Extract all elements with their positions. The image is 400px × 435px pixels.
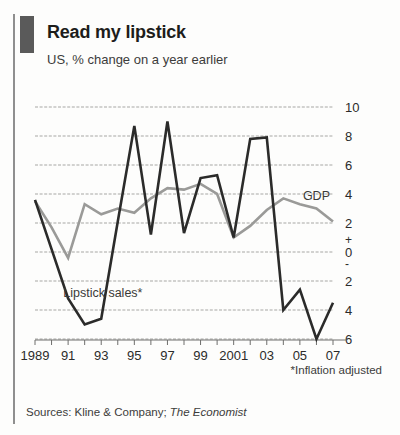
chart-card: Read my lipstick US, % change on a year …: [0, 0, 400, 435]
x-tick-label: 99: [193, 348, 207, 363]
data-series: [35, 122, 333, 340]
footnote: *Inflation adjusted: [291, 364, 382, 376]
x-tick-label: 97: [160, 348, 174, 363]
x-tick-label: 93: [94, 348, 108, 363]
series-line: [35, 122, 333, 340]
x-tick-label: 95: [127, 348, 141, 363]
series-labels: Lipstick sales*GDP: [63, 189, 330, 300]
sources-publication: The Economist: [170, 406, 247, 418]
x-tick-label: 05: [293, 348, 307, 363]
y-axis-tick-labels: 1086420246: [345, 100, 359, 347]
y-tick-label: 6: [345, 158, 352, 173]
x-tick-label: 2001: [219, 348, 248, 363]
y-tick-label: 4: [345, 303, 352, 318]
sources-line: Sources: Kline & Company; The Economist: [26, 406, 247, 418]
series-label: Lipstick sales*: [63, 286, 142, 300]
y-axis-plus-sign: +: [345, 233, 352, 247]
y-tick-label: 6: [345, 332, 352, 347]
series-label: GDP: [303, 189, 330, 203]
x-tick-label: 07: [326, 348, 340, 363]
x-axis: [35, 340, 347, 345]
x-tick-label: 03: [260, 348, 274, 363]
sources-prefix: Sources: Kline & Company;: [26, 406, 170, 418]
y-tick-label: 2: [345, 216, 352, 231]
x-axis-tick-labels: 198991939597992001030507: [21, 348, 341, 363]
x-tick-label: 1989: [21, 348, 50, 363]
y-tick-label: 10: [345, 100, 359, 115]
y-tick-label: 4: [345, 187, 352, 202]
y-axis-minus-sign: -: [345, 257, 349, 271]
y-tick-label: 2: [345, 274, 352, 289]
y-tick-label: 8: [345, 129, 352, 144]
x-tick-label: 91: [61, 348, 75, 363]
series-line: [35, 184, 333, 258]
